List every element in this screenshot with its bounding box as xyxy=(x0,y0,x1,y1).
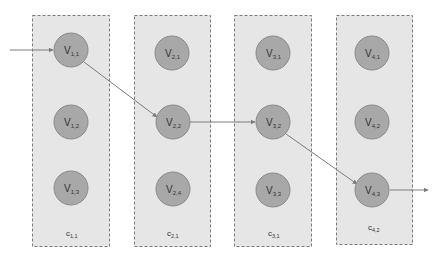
node-v31: V3,1 xyxy=(256,36,290,70)
node-v11: V1,1 xyxy=(54,33,88,67)
node-v24: V2,4 xyxy=(156,172,190,206)
node-v12: V1,2 xyxy=(54,105,88,139)
node-v33: V3,3 xyxy=(256,173,290,207)
node-v43: V4,3 xyxy=(355,173,389,207)
node-v42: V4,2 xyxy=(355,105,389,139)
diagram-canvas: V1,1 V1,2 V1,3 V2,1 V2,2 V2,4 V3,1 V3,2 … xyxy=(0,0,441,261)
node-v22: V2,2 xyxy=(156,105,190,139)
node-v21: V2,1 xyxy=(155,36,189,70)
node-v32: V3,2 xyxy=(256,105,290,139)
node-v41: V4,1 xyxy=(355,36,389,70)
node-v13: V1,3 xyxy=(54,171,88,205)
